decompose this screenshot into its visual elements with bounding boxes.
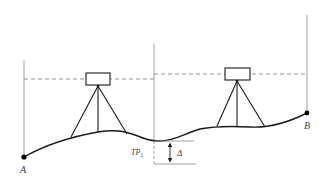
delta-arrow-icon xyxy=(168,143,172,163)
tripod-leg-right xyxy=(98,86,127,134)
level-instrument-2 xyxy=(217,68,265,127)
tp1-label: TP1 xyxy=(131,148,143,158)
ground-profile xyxy=(24,113,307,157)
tripod-leg-left xyxy=(71,86,98,137)
point-b-marker xyxy=(305,111,310,116)
delta-label: Δ xyxy=(176,148,182,158)
tripod-head xyxy=(97,85,100,88)
point-b-label: B xyxy=(304,120,310,131)
level-telescope-icon xyxy=(86,73,110,85)
leveling-diagram: A B TP1 Δ xyxy=(0,0,327,185)
point-a-label: A xyxy=(19,164,27,175)
level-instrument-1 xyxy=(71,73,127,137)
level-telescope-icon xyxy=(225,68,250,80)
point-a-marker xyxy=(21,154,26,159)
tp1-label-main: TP xyxy=(131,148,140,157)
tripod-leg-left xyxy=(217,81,237,126)
tripod-head xyxy=(236,80,239,83)
tripod-leg-right xyxy=(237,81,265,127)
tp1-label-subscript: 1 xyxy=(140,152,143,158)
